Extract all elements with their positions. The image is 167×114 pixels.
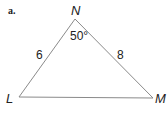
side-NM-length: 8 (117, 48, 124, 62)
vertex-label-L: L (6, 91, 13, 106)
angle-N-label: 50° (70, 29, 88, 43)
side-LN-length: 6 (36, 48, 43, 62)
vertex-label-N: N (71, 3, 81, 18)
vertex-label-M: M (155, 91, 166, 106)
triangle-diagram: a. N L M 50° 6 8 (0, 0, 167, 114)
part-label: a. (8, 5, 16, 16)
